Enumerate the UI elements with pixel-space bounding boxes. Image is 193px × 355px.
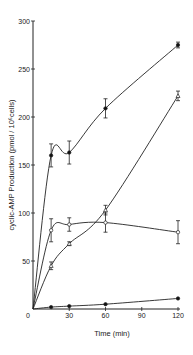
x-tick-label: 90	[138, 312, 146, 319]
series-3	[33, 297, 180, 309]
data-point-triangle	[176, 94, 180, 98]
data-point-circle	[104, 221, 107, 224]
data-point-circle	[49, 229, 52, 232]
series-2	[33, 213, 180, 309]
data-point-circle	[104, 303, 107, 306]
data-point-circle	[68, 223, 71, 226]
series-group	[33, 42, 180, 309]
x-axis-title: Time (min)	[94, 329, 130, 338]
data-point-circle	[176, 297, 179, 300]
x-tick-label: 120	[172, 312, 184, 319]
series-line	[33, 222, 178, 309]
y-tick-label: 150	[18, 162, 30, 169]
data-point-circle	[104, 107, 107, 110]
y-tick-label: 300	[18, 18, 30, 25]
series-0	[33, 42, 180, 309]
series-1	[33, 91, 180, 309]
y-tick-label: 100	[18, 210, 30, 217]
y-tick-label: 50	[22, 258, 30, 265]
chart: 501001502002503000306090120 Time (min) c…	[0, 0, 193, 355]
data-point-circle	[68, 304, 71, 307]
data-point-triangle	[49, 264, 53, 268]
data-point-circle	[176, 231, 179, 234]
y-axis-title: cyclic-AMP Production (pmol / 10⁶cells)	[7, 99, 16, 230]
data-point-circle	[49, 305, 52, 308]
series-line	[33, 45, 178, 309]
y-tick-label: 250	[18, 66, 30, 73]
y-tick-label: 200	[18, 114, 30, 121]
x-tick-label: 0	[26, 312, 30, 319]
data-point-circle	[176, 43, 179, 46]
x-tick-label: 30	[65, 312, 73, 319]
data-point-circle	[68, 151, 71, 154]
axes: 501001502002503000306090120	[18, 18, 184, 320]
data-point-circle	[49, 154, 52, 157]
series-line	[33, 96, 178, 309]
x-tick-label: 60	[102, 312, 110, 319]
